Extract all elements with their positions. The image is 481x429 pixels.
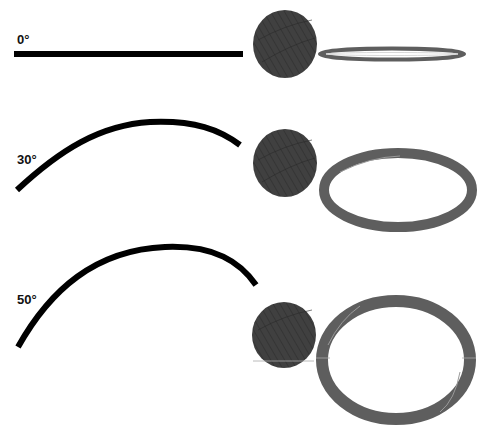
row-30-degrees bbox=[17, 122, 472, 227]
ring-50 bbox=[316, 301, 476, 419]
sphere bbox=[253, 129, 317, 197]
row-0-degrees bbox=[14, 10, 464, 78]
sphere bbox=[252, 302, 316, 368]
flat-ring bbox=[320, 49, 464, 60]
ring-30 bbox=[324, 153, 472, 227]
angle-label-50: 50° bbox=[17, 293, 37, 306]
straight-strip bbox=[14, 51, 243, 57]
bending-diagram bbox=[0, 0, 481, 429]
sphere bbox=[253, 10, 317, 78]
row-50-degrees bbox=[18, 247, 476, 419]
curved-strip-30 bbox=[17, 122, 240, 190]
curved-strip-50 bbox=[18, 247, 256, 347]
angle-label-30: 30° bbox=[17, 153, 37, 166]
angle-label-0: 0° bbox=[17, 33, 29, 46]
